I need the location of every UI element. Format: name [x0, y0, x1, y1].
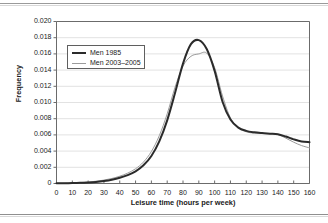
y-tick-label: 0.016 [16, 49, 52, 56]
legend-label-men-2003-2005: Men 2003–2005 [90, 59, 141, 67]
y-tick-label: 0.008 [16, 114, 52, 121]
y-tick-label: 0.010 [16, 98, 52, 105]
y-tick-label: 0 [16, 179, 52, 186]
legend: Men 1985 Men 2003–2005 [67, 45, 145, 69]
legend-item-men-2003-2005: Men 2003–2005 [72, 58, 141, 68]
y-tick-label: 0.002 [16, 163, 52, 170]
y-tick-label: 0.012 [16, 82, 52, 89]
figure-container: Frequency Leisure time (hours per week) … [0, 0, 328, 223]
legend-line-swatch-men-2003-2005 [72, 63, 86, 64]
x-axis-title: Leisure time (hours per week) [56, 198, 310, 207]
y-tick-label: 0.018 [16, 33, 52, 40]
legend-item-men-1985: Men 1985 [72, 48, 121, 58]
legend-label-men-1985: Men 1985 [90, 49, 121, 57]
y-tick-label: 0.020 [16, 17, 52, 24]
x-tick-label: 160 [299, 189, 321, 196]
series-line-men-2003-2005 [57, 52, 310, 183]
gridlines-group [57, 22, 310, 168]
y-tick-label: 0.004 [16, 147, 52, 154]
y-tick-label: 0.014 [16, 66, 52, 73]
legend-line-swatch-men-1985 [72, 52, 86, 54]
y-tick-label: 0.006 [16, 130, 52, 137]
